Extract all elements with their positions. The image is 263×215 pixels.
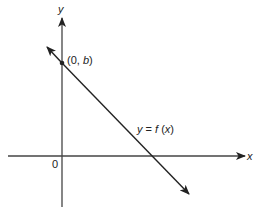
- y-axis-label: y: [57, 3, 65, 15]
- point-label: (0, b): [67, 54, 93, 66]
- coordinate-plane: y x 0 (0, b) y = f (x): [0, 0, 263, 215]
- y-intercept-point: [60, 61, 65, 66]
- function-line: [47, 47, 62, 63]
- function-label: y = f (x): [136, 123, 174, 135]
- x-axis-label: x: [246, 150, 253, 162]
- origin-label: 0: [52, 158, 58, 170]
